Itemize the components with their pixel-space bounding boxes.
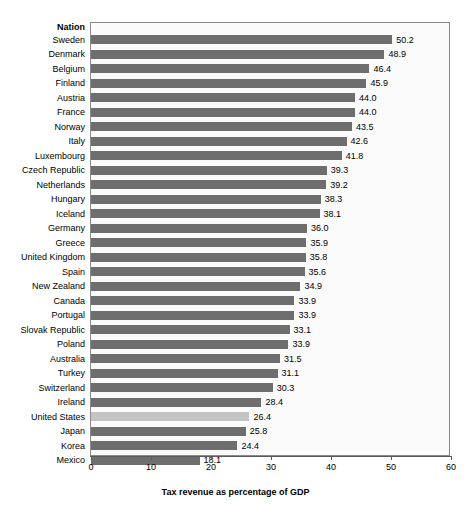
bar-row: Denmark48.9 — [0, 48, 471, 63]
x-axis-tick-label: 0 — [76, 462, 106, 473]
bar-row-label: Mexico — [0, 454, 85, 466]
bar — [91, 238, 306, 247]
bar — [91, 427, 246, 436]
bar-row: Korea24.4 — [0, 439, 471, 454]
bar-rows-container: Sweden50.2Denmark48.9Belgium46.4Finland4… — [0, 33, 471, 453]
bar-row-label: Czech Republic — [0, 164, 85, 176]
bar — [91, 369, 278, 378]
bar-value-label: 42.6 — [351, 135, 369, 147]
bar-row: Netherlands39.2 — [0, 178, 471, 193]
x-axis-tick — [391, 456, 392, 460]
bar-value-label: 24.4 — [241, 440, 259, 452]
bar-value-label: 31.5 — [284, 353, 302, 365]
bar-row: Spain35.6 — [0, 265, 471, 280]
bar — [91, 180, 326, 189]
x-axis-tick-label: 50 — [376, 462, 406, 473]
bar-value-label: 30.3 — [277, 382, 295, 394]
bar-row-label: Luxembourg — [0, 150, 85, 162]
bar — [91, 166, 327, 175]
x-axis-tick-label: 10 — [136, 462, 166, 473]
bar — [91, 383, 273, 392]
bar-row-label: Belgium — [0, 63, 85, 75]
tax-revenue-bar-chart: Nation Sweden50.2Denmark48.9Belgium46.4F… — [0, 0, 471, 514]
x-axis-title: Tax revenue as percentage of GDP — [0, 486, 471, 498]
bar-row: France44.0 — [0, 106, 471, 121]
bar — [91, 93, 355, 102]
bar-value-label: 50.2 — [396, 34, 414, 46]
bar-row-label: Turkey — [0, 367, 85, 379]
bar-row: Turkey31.1 — [0, 367, 471, 382]
bar-row: Czech Republic39.3 — [0, 164, 471, 179]
bar-value-label: 39.2 — [330, 179, 348, 191]
bar-row-label: Sweden — [0, 34, 85, 46]
bar — [91, 441, 237, 450]
x-axis-tick — [211, 456, 212, 460]
bar-row-label: Australia — [0, 353, 85, 365]
bar-row: Italy42.6 — [0, 135, 471, 150]
bar-row-label: Austria — [0, 92, 85, 104]
bar-row-label: Netherlands — [0, 179, 85, 191]
bar-row: Australia31.5 — [0, 352, 471, 367]
bar-row: Japan25.8 — [0, 425, 471, 440]
category-column-header: Nation — [0, 21, 85, 33]
x-axis-tick — [91, 456, 92, 460]
bar-row: Iceland38.1 — [0, 207, 471, 222]
bar-row-label: New Zealand — [0, 280, 85, 292]
bar-row: Ireland28.4 — [0, 396, 471, 411]
bar-value-label: 38.3 — [325, 193, 343, 205]
bar — [91, 151, 342, 160]
bar — [91, 325, 290, 334]
x-axis-tick — [451, 456, 452, 460]
bar — [91, 79, 366, 88]
bar-row: Finland45.9 — [0, 77, 471, 92]
bar-row-label: Italy — [0, 135, 85, 147]
x-axis-tick-label: 20 — [196, 462, 226, 473]
bar-value-label: 33.9 — [298, 295, 316, 307]
bar — [91, 122, 352, 131]
bar — [91, 354, 280, 363]
bar-row: Poland33.9 — [0, 338, 471, 353]
x-axis-tick — [151, 456, 152, 460]
bar-row-label: United Kingdom — [0, 251, 85, 263]
bar — [91, 108, 355, 117]
bar-row: Slovak Republic33.1 — [0, 323, 471, 338]
bar-value-label: 41.8 — [346, 150, 364, 162]
bar-row-label: Denmark — [0, 48, 85, 60]
x-axis-tick — [331, 456, 332, 460]
bar — [91, 253, 306, 262]
bar-value-label: 43.5 — [356, 121, 374, 133]
bar-row: New Zealand34.9 — [0, 280, 471, 295]
bar-value-label: 35.6 — [309, 266, 327, 278]
bar-value-label: 34.9 — [304, 280, 322, 292]
bar-row-label: Ireland — [0, 396, 85, 408]
bar — [91, 311, 294, 320]
bar-value-label: 44.0 — [359, 92, 377, 104]
bar — [91, 296, 294, 305]
bar — [91, 195, 321, 204]
bar-row: United States26.4 — [0, 410, 471, 425]
bar-row-label: Portugal — [0, 309, 85, 321]
bar-row: United Kingdom35.8 — [0, 251, 471, 266]
bar — [91, 412, 249, 421]
bar-row: Portugal33.9 — [0, 309, 471, 324]
bar-value-label: 33.9 — [292, 338, 310, 350]
bar-row: Switzerland30.3 — [0, 381, 471, 396]
bar — [91, 282, 300, 291]
bar-row: Canada33.9 — [0, 294, 471, 309]
bar-row-label: Korea — [0, 440, 85, 452]
bar-row: Norway43.5 — [0, 120, 471, 135]
bar-value-label: 33.9 — [298, 309, 316, 321]
bar-row: Belgium46.4 — [0, 62, 471, 77]
bar-row-label: Hungary — [0, 193, 85, 205]
bar-value-label: 35.8 — [310, 251, 328, 263]
x-axis-tick — [271, 456, 272, 460]
x-axis-tick-label: 60 — [436, 462, 466, 473]
bar-row-label: Norway — [0, 121, 85, 133]
bar-value-label: 38.1 — [324, 208, 342, 220]
bar-row: Austria44.0 — [0, 91, 471, 106]
x-axis-tick-label: 30 — [256, 462, 286, 473]
bar — [91, 209, 320, 218]
bar-row: Luxembourg41.8 — [0, 149, 471, 164]
bar-row-label: United States — [0, 411, 85, 423]
bar-value-label: 31.1 — [282, 367, 300, 379]
